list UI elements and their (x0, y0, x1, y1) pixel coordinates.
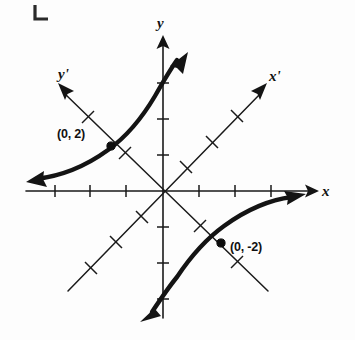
hyperbola-rotated-axes-figure: x y (0, 0, 355, 340)
point-0-2: (0, 2) (57, 127, 115, 150)
y-axis-label: y (155, 15, 164, 31)
curve-lower-left-arrowhead-icon (140, 305, 161, 322)
y-axis: y (155, 15, 170, 318)
point-0-2-label: (0, 2) (57, 127, 85, 141)
point-0-minus-2: (0, -2) (217, 239, 262, 254)
corner-crop-mark-icon (35, 5, 48, 19)
yprime-axis-label: y' (56, 66, 69, 82)
curve-branch-lower-right (140, 191, 306, 322)
point-0-2-dot (107, 142, 115, 150)
point-0-minus-2-dot (217, 239, 225, 247)
xprime-axis-label: x' (268, 68, 281, 84)
xprime-axis: x' (68, 68, 281, 291)
xprime-axis-arrowhead-icon (251, 83, 267, 100)
figure-container: x y (0, 0, 355, 340)
point-0-minus-2-label: (0, -2) (230, 240, 262, 254)
yprime-axis-arrowhead-icon (58, 83, 74, 100)
x-axis-label: x (321, 183, 330, 199)
yprime-axis: y' (56, 66, 268, 291)
